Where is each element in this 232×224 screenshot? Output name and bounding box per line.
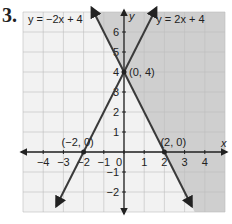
y-tick-label: 1 bbox=[113, 126, 119, 138]
series-label-2: y = 2x + 4 bbox=[156, 13, 204, 25]
x-tick-label: 1 bbox=[141, 156, 147, 168]
point-label: (−2, 0) bbox=[62, 136, 94, 148]
point-marker bbox=[81, 150, 86, 155]
series-label-1: y = −2x + 4 bbox=[28, 13, 83, 25]
x-tick-label: −3 bbox=[57, 156, 70, 168]
x-axis-label: x bbox=[220, 137, 227, 149]
x-tick-label: 3 bbox=[182, 156, 188, 168]
y-tick-label: −2 bbox=[106, 186, 119, 198]
x-tick-label: 4 bbox=[202, 156, 208, 168]
chart: −4−3−2−101234−2−1123456xyy = −2x + 4y = … bbox=[0, 0, 232, 224]
point-label: (2, 0) bbox=[160, 136, 186, 148]
y-tick-label: 6 bbox=[113, 26, 119, 38]
point-marker bbox=[162, 150, 167, 155]
point-label: (0, 4) bbox=[129, 66, 155, 78]
y-tick-label: 4 bbox=[113, 66, 119, 78]
point-marker bbox=[122, 70, 127, 75]
x-tick-label: −4 bbox=[37, 156, 50, 168]
y-tick-label: −1 bbox=[106, 166, 119, 178]
y-tick-label: 2 bbox=[113, 106, 119, 118]
